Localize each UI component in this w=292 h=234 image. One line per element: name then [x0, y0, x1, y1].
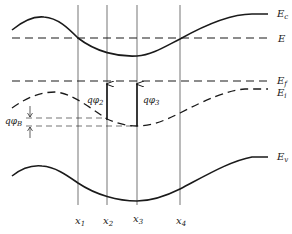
potential-arrows: [107, 84, 137, 126]
x3-label: x3: [133, 213, 144, 226]
x2-label: x2: [103, 215, 114, 228]
x4-label: x4: [176, 215, 186, 228]
phi3-label: qφ3: [143, 95, 160, 107]
x1-label: x1: [75, 215, 85, 228]
valence-band-curve: [12, 157, 268, 201]
position-lines: [78, 5, 180, 205]
band-diagram: Ec E Ef Ei Ev qφ2 qφ3 qφB x1 x2 x3 x4: [0, 0, 292, 234]
phiB-reference-lines: [26, 118, 137, 126]
intrinsic-level-curve: [12, 89, 268, 126]
phi2-label: qφ2: [87, 95, 104, 107]
phiB-arrows: [28, 106, 33, 138]
ec-label: Ec: [276, 8, 288, 21]
conduction-band-curve: [12, 14, 268, 56]
e-label: E: [277, 33, 286, 44]
ei-label: Ei: [276, 87, 287, 100]
ev-label: Ev: [276, 151, 288, 164]
phiB-label: qφB: [5, 116, 22, 128]
